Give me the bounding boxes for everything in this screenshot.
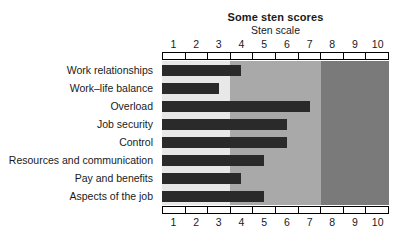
x-axis-title: Sten scale bbox=[162, 24, 389, 37]
x-tick-label-7: 7 bbox=[298, 216, 321, 229]
axis-tick-cell-5 bbox=[253, 53, 276, 59]
bar-value bbox=[162, 101, 310, 112]
x-tick-label-3: 3 bbox=[207, 216, 230, 229]
category-label: Overload bbox=[110, 101, 153, 112]
bar-row bbox=[162, 137, 389, 148]
axis-tick-cell-2 bbox=[186, 207, 209, 213]
bar-value bbox=[162, 83, 219, 94]
category-label: Job security bbox=[97, 119, 153, 130]
axis-tick-cell-8 bbox=[321, 207, 344, 213]
axis-tick-cell-5 bbox=[253, 207, 276, 213]
bar-row bbox=[162, 173, 389, 184]
x-tick-label-9: 9 bbox=[344, 216, 367, 229]
axis-tick-cell-3 bbox=[208, 53, 231, 59]
axis-tick-cell-6 bbox=[276, 207, 299, 213]
page-title: Some sten scores bbox=[162, 11, 389, 24]
x-tick-label-5: 5 bbox=[253, 38, 276, 51]
axis-tick-cell-7 bbox=[299, 207, 322, 213]
category-label: Work relationships bbox=[67, 65, 153, 76]
x-tick-label-7: 7 bbox=[298, 38, 321, 51]
axis-tick-cell-10 bbox=[366, 53, 388, 59]
x-tick-label-2: 2 bbox=[185, 216, 208, 229]
axis-tick-cell-8 bbox=[321, 53, 344, 59]
x-axis-tick-labels-top: 12345678910 bbox=[162, 38, 389, 51]
bar-row bbox=[162, 119, 389, 130]
axis-tick-cell-1 bbox=[163, 207, 186, 213]
x-tick-label-3: 3 bbox=[207, 38, 230, 51]
category-label: Resources and communication bbox=[9, 155, 153, 166]
category-label: Work–life balance bbox=[70, 83, 153, 94]
bar-value bbox=[162, 119, 287, 130]
x-tick-label-6: 6 bbox=[276, 216, 299, 229]
sten-scores-chart: Some sten scores Sten scale 12345678910 … bbox=[0, 0, 402, 244]
x-axis-scale-bar-top bbox=[162, 52, 389, 60]
x-tick-label-4: 4 bbox=[230, 38, 253, 51]
category-label: Aspects of the job bbox=[70, 191, 153, 202]
x-tick-label-10: 10 bbox=[366, 38, 389, 51]
bar-row bbox=[162, 155, 389, 166]
x-tick-label-6: 6 bbox=[276, 38, 299, 51]
axis-tick-cell-1 bbox=[163, 53, 186, 59]
axis-tick-cell-7 bbox=[299, 53, 322, 59]
bar-value bbox=[162, 155, 264, 166]
axis-tick-cell-4 bbox=[231, 207, 254, 213]
axis-tick-cell-6 bbox=[276, 53, 299, 59]
axis-tick-cell-2 bbox=[186, 53, 209, 59]
bar-row bbox=[162, 191, 389, 202]
axis-tick-cell-10 bbox=[366, 207, 388, 213]
x-axis-tick-labels-bottom: 12345678910 bbox=[162, 216, 389, 229]
category-axis-labels: Work relationshipsWork–life balanceOverl… bbox=[0, 61, 157, 205]
bar-value bbox=[162, 191, 264, 202]
plot-area bbox=[162, 61, 389, 205]
bar-value bbox=[162, 173, 241, 184]
x-tick-label-8: 8 bbox=[321, 38, 344, 51]
x-tick-label-5: 5 bbox=[253, 216, 276, 229]
bar-row bbox=[162, 101, 389, 112]
axis-tick-cell-3 bbox=[208, 207, 231, 213]
bar-row bbox=[162, 83, 389, 94]
axis-tick-cell-9 bbox=[344, 207, 367, 213]
category-label: Pay and benefits bbox=[75, 173, 153, 184]
x-tick-label-1: 1 bbox=[162, 216, 185, 229]
x-tick-label-4: 4 bbox=[230, 216, 253, 229]
bar-value bbox=[162, 65, 241, 76]
category-label: Control bbox=[119, 137, 153, 148]
x-tick-label-9: 9 bbox=[344, 38, 367, 51]
axis-tick-cell-4 bbox=[231, 53, 254, 59]
x-tick-label-8: 8 bbox=[321, 216, 344, 229]
x-axis-scale-bar-bottom bbox=[162, 206, 389, 214]
chart-title-block: Some sten scores Sten scale bbox=[162, 11, 389, 37]
x-tick-label-10: 10 bbox=[366, 216, 389, 229]
bar-row bbox=[162, 65, 389, 76]
x-tick-label-1: 1 bbox=[162, 38, 185, 51]
x-tick-label-2: 2 bbox=[185, 38, 208, 51]
bar-value bbox=[162, 137, 287, 148]
axis-tick-cell-9 bbox=[344, 53, 367, 59]
